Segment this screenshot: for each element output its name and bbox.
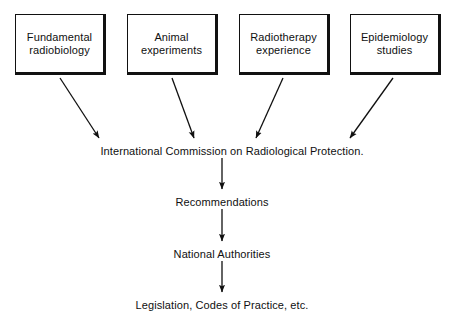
source-box-epidemiology-studies[interactable]: Epidemiology studies <box>350 14 441 75</box>
chain-label-legislation: Legislation, Codes of Practice, etc. <box>136 299 309 312</box>
arrow-radiobiology-to-icrp <box>60 78 99 138</box>
source-box-label: Radiotherapy experience <box>247 31 320 57</box>
chain-label-recommendations: Recommendations <box>175 196 268 209</box>
chain-label-national-authorities: National Authorities <box>174 248 271 261</box>
flow-diagram: Fundamental radiobiology Animal experime… <box>0 0 451 322</box>
source-box-label: Epidemiology studies <box>358 31 431 57</box>
source-box-animal-experiments[interactable]: Animal experiments <box>127 14 218 75</box>
source-box-label: Animal experiments <box>138 31 205 57</box>
source-box-fundamental-radiobiology[interactable]: Fundamental radiobiology <box>15 14 106 75</box>
source-box-label: Fundamental radiobiology <box>24 31 95 57</box>
arrow-radiotherapy-to-icrp <box>256 78 283 138</box>
chain-label-icrp: International Commission on Radiological… <box>100 145 363 158</box>
arrow-epidemiology-to-icrp <box>350 78 393 138</box>
arrow-animal-to-icrp <box>172 78 194 138</box>
source-box-radiotherapy-experience[interactable]: Radiotherapy experience <box>239 14 330 75</box>
